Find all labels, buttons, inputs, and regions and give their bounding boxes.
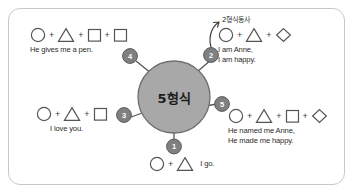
branch-3-sentence: I love you. bbox=[50, 124, 108, 134]
triangle-shape bbox=[176, 156, 194, 172]
badge-2-label: 2 bbox=[209, 51, 213, 60]
branch-4-group: + + + He gives me a pen. bbox=[30, 27, 128, 55]
diagram-canvas: 4 2 3 5 1 5형식 2형식동사 bbox=[0, 0, 353, 193]
square-shape bbox=[93, 106, 108, 122]
square-shape bbox=[87, 27, 102, 43]
center-label: 5형식 bbox=[138, 88, 210, 107]
badge-5-label: 5 bbox=[220, 100, 224, 109]
branch-1-sentence: I go. bbox=[200, 159, 214, 169]
circle-shape bbox=[149, 156, 165, 172]
triangle-shape bbox=[57, 27, 75, 43]
plus-sign: + bbox=[77, 31, 84, 40]
circle-shape bbox=[36, 106, 52, 122]
circle-shape bbox=[218, 27, 234, 43]
branch-3-shapes: + + bbox=[36, 106, 108, 122]
branch-1-shapes: + I go. bbox=[149, 156, 214, 172]
triangle-shape bbox=[63, 106, 81, 122]
plus-sign: + bbox=[167, 160, 174, 169]
plus-sign: + bbox=[275, 112, 282, 121]
plus-sign: + bbox=[104, 31, 111, 40]
diamond-shape bbox=[311, 108, 328, 124]
triangle-shape bbox=[255, 108, 273, 124]
square-shape bbox=[285, 108, 300, 124]
plus-sign: + bbox=[246, 112, 253, 121]
badge-2[interactable]: 2 bbox=[204, 48, 219, 63]
badge-3-label: 3 bbox=[122, 111, 126, 120]
annotation-label: 2형식동사 bbox=[222, 14, 249, 24]
circle-shape bbox=[30, 27, 46, 43]
diamond-shape bbox=[275, 27, 292, 43]
badge-1[interactable]: 1 bbox=[167, 139, 182, 154]
plus-sign: + bbox=[83, 110, 90, 119]
branch-1-group: + I go. bbox=[149, 156, 214, 172]
branch-2-sentence: I am Anne, I am happy. bbox=[218, 45, 292, 65]
branch-3-group: + + I love you. bbox=[36, 106, 108, 134]
branch-5-group: + + + He named me Anne, He made me happy… bbox=[228, 108, 328, 146]
plus-sign: + bbox=[265, 31, 272, 40]
plus-sign: + bbox=[236, 31, 243, 40]
branch-4-sentence: He gives me a pen. bbox=[30, 45, 128, 55]
branch-2-shapes: + + bbox=[218, 27, 292, 43]
badge-3[interactable]: 3 bbox=[117, 108, 132, 123]
branch-2-group: + + I am Anne, I am happy. bbox=[218, 27, 292, 65]
circle-shape bbox=[228, 108, 244, 124]
badge-1-label: 1 bbox=[172, 142, 176, 151]
plus-sign: + bbox=[48, 31, 55, 40]
branch-5-sentence: He named me Anne, He made me happy. bbox=[228, 126, 328, 146]
plus-sign: + bbox=[302, 112, 309, 121]
triangle-shape bbox=[245, 27, 263, 43]
square-shape bbox=[113, 27, 128, 43]
plus-sign: + bbox=[54, 110, 61, 119]
branch-5-shapes: + + + bbox=[228, 108, 328, 124]
branch-4-shapes: + + + bbox=[30, 27, 128, 43]
